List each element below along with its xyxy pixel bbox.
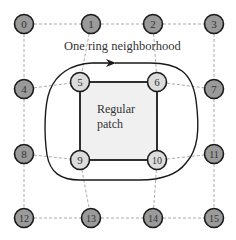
one-ring-diagram: One ring neighborhood Regular patch 0123… — [0, 0, 236, 240]
diagram-canvas: One ring neighborhood Regular patch 0123… — [0, 0, 236, 240]
vertex-label: 14 — [148, 213, 158, 224]
patch-label-line2: patch — [97, 117, 123, 131]
vertex-label: 1 — [88, 18, 94, 30]
vertex-label: 8 — [21, 148, 27, 160]
vertex-label: 13 — [86, 213, 96, 224]
vertex-node-5: 5 — [71, 73, 90, 92]
vertex-node-3: 3 — [205, 15, 224, 34]
vertex-label: 12 — [19, 213, 29, 224]
vertex-label: 10 — [152, 155, 162, 166]
vertex-node-7: 7 — [205, 80, 224, 99]
vertex-node-15: 15 — [205, 209, 224, 228]
vertex-node-10: 10 — [148, 151, 167, 170]
vertex-label: 11 — [209, 149, 219, 160]
vertex-node-6: 6 — [148, 73, 167, 92]
vertex-node-2: 2 — [144, 15, 163, 34]
vertex-label: 5 — [77, 76, 83, 88]
vertex-label: 7 — [211, 83, 217, 95]
vertex-label: 9 — [77, 154, 83, 166]
vertex-label: 15 — [209, 213, 219, 224]
vertex-node-1: 1 — [82, 15, 101, 34]
patch-label-line1: Regular — [97, 102, 135, 116]
vertex-node-12: 12 — [15, 209, 34, 228]
vertex-label: 4 — [21, 83, 27, 95]
vertex-node-14: 14 — [144, 209, 163, 228]
vertex-node-11: 11 — [205, 145, 224, 164]
vertex-node-0: 0 — [15, 15, 34, 34]
vertex-node-13: 13 — [82, 209, 101, 228]
vertex-label: 2 — [150, 18, 156, 30]
vertex-node-8: 8 — [15, 145, 34, 164]
vertex-node-9: 9 — [71, 151, 90, 170]
title-label: One ring neighborhood — [64, 39, 181, 53]
vertex-label: 0 — [21, 18, 27, 30]
vertex-label: 3 — [211, 18, 217, 30]
vertex-label: 6 — [154, 76, 160, 88]
vertex-node-4: 4 — [15, 80, 34, 99]
